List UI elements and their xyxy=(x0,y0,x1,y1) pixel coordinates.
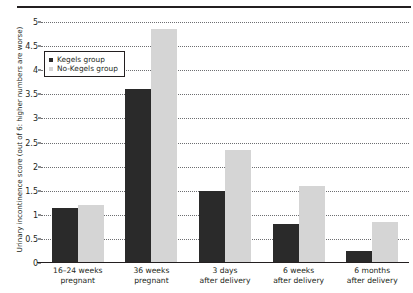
legend-swatch-kegels-icon xyxy=(49,58,53,62)
legend-label: No-Kegels group xyxy=(57,64,118,73)
bar-kegels-group xyxy=(199,191,225,263)
x-axis-label-line: pregnant xyxy=(115,276,189,286)
legend-item: Kegels group xyxy=(49,55,118,64)
bar-group xyxy=(125,22,177,263)
x-axis-label: 3 daysafter delivery xyxy=(188,266,262,286)
x-axis-label-line: 3 days xyxy=(188,266,262,276)
y-tick-label: 2.5 xyxy=(25,138,38,147)
y-tick-label: 3 xyxy=(33,114,38,123)
x-axis-label: 6 weeksafter delivery xyxy=(262,266,336,286)
bar-kegels-group xyxy=(125,89,151,263)
bar-kegels-group xyxy=(273,224,299,263)
x-axis-label-line: after delivery xyxy=(262,276,336,286)
top-horizontal-rule xyxy=(17,6,411,8)
y-tick-label: 5 xyxy=(33,18,38,27)
x-axis-label-line: after delivery xyxy=(188,276,262,286)
bar-chart-figure: Urinary incontinence score (out of 6: hi… xyxy=(0,0,413,293)
x-axis-label-line: 16–24 weeks xyxy=(41,266,115,276)
x-axis-label: 6 monthsafter delivery xyxy=(335,266,409,286)
x-axis-label: 16–24 weekspregnant xyxy=(41,266,115,286)
y-axis-title: Urinary incontinence score (out of 6: hi… xyxy=(15,15,24,265)
y-tick-label: 4 xyxy=(33,66,38,75)
y-tick-label: 2 xyxy=(33,162,38,171)
bar-no-kegels-group xyxy=(151,29,177,263)
y-tick-label: 1.5 xyxy=(25,186,38,195)
x-axis-label-line: pregnant xyxy=(41,276,115,286)
bar-no-kegels-group xyxy=(372,222,398,263)
legend-swatch-no-kegels-icon xyxy=(49,67,53,71)
legend-label: Kegels group xyxy=(57,55,105,64)
bar-kegels-group xyxy=(52,208,78,263)
bar-no-kegels-group xyxy=(225,150,251,263)
x-axis-label-line: 6 weeks xyxy=(262,266,336,276)
bar-no-kegels-group xyxy=(299,186,325,263)
y-tick-label: 0 xyxy=(33,259,38,268)
x-axis-label-line: 6 months xyxy=(335,266,409,276)
x-axis-label-line: after delivery xyxy=(335,276,409,286)
x-axis-label-line: 36 weeks xyxy=(115,266,189,276)
legend-item: No-Kegels group xyxy=(49,64,118,73)
bar-no-kegels-group xyxy=(78,205,104,263)
bar-group xyxy=(199,22,251,263)
x-axis-labels: 16–24 weekspregnant36 weekspregnant3 day… xyxy=(41,266,409,293)
y-tick-label: 3.5 xyxy=(25,90,38,99)
chart-legend: Kegels groupNo-Kegels group xyxy=(44,51,125,77)
bar-group xyxy=(346,22,398,263)
y-tick-label: 1 xyxy=(33,210,38,219)
y-tick-label: 0.5 xyxy=(25,234,38,243)
x-axis-label: 36 weekspregnant xyxy=(115,266,189,286)
bar-group xyxy=(273,22,325,263)
x-axis-baseline xyxy=(37,262,409,263)
y-tick-label: 4.5 xyxy=(25,42,38,51)
